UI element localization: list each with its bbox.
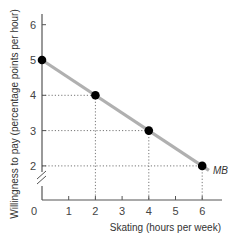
y-tick-label: 3 xyxy=(30,125,36,137)
mb-chart: 234560123456MBSkating (hours per week)Wi… xyxy=(0,0,236,236)
data-point xyxy=(145,126,154,135)
y-axis-title: Willingness to pay (percentage points pe… xyxy=(9,9,20,219)
x-tick-label: 3 xyxy=(119,205,125,217)
data-point xyxy=(91,91,100,100)
data-point xyxy=(38,56,47,65)
x-axis-title: Skating (hours per week) xyxy=(110,222,221,233)
x-tick-label: 6 xyxy=(199,205,205,217)
y-tick-label: 6 xyxy=(30,19,36,31)
x-tick-label: 0 xyxy=(31,205,37,217)
data-point xyxy=(198,162,207,171)
x-tick-label: 1 xyxy=(66,205,72,217)
y-tick-label: 4 xyxy=(30,89,36,101)
chart-container: 234560123456MBSkating (hours per week)Wi… xyxy=(0,0,236,236)
y-tick-label: 2 xyxy=(30,160,36,172)
y-tick-label: 5 xyxy=(30,54,36,66)
x-tick-label: 2 xyxy=(92,205,98,217)
mb-curve xyxy=(42,60,209,170)
mb-curve-label: MB xyxy=(213,165,228,176)
x-tick-label: 5 xyxy=(172,205,178,217)
x-tick-label: 4 xyxy=(146,205,152,217)
